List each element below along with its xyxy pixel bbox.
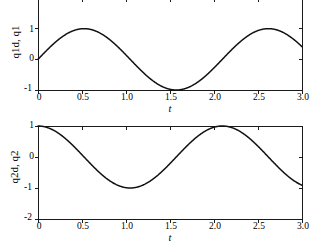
- plot-frame: [38, 0, 302, 90]
- plot-panel-top: q1d, q1 2 1 0 -1 0 0.5 1.0 1.5 2.0 2.5 3…: [0, 0, 316, 118]
- figure-container: q1d, q1 2 1 0 -1 0 0.5 1.0 1.5 2.0 2.5 3…: [0, 0, 316, 250]
- plot-svg-top: [0, 0, 316, 118]
- plot-frame: [38, 126, 302, 219]
- data-curve-q2: [38, 126, 302, 188]
- plot-panel-bottom: q2d, q2 1 0 -1 -2 0 0.5 1.0 1.5 2.0 2.5 …: [0, 118, 316, 250]
- plot-svg-bottom: [0, 118, 316, 250]
- data-curve-q1: [38, 29, 302, 90]
